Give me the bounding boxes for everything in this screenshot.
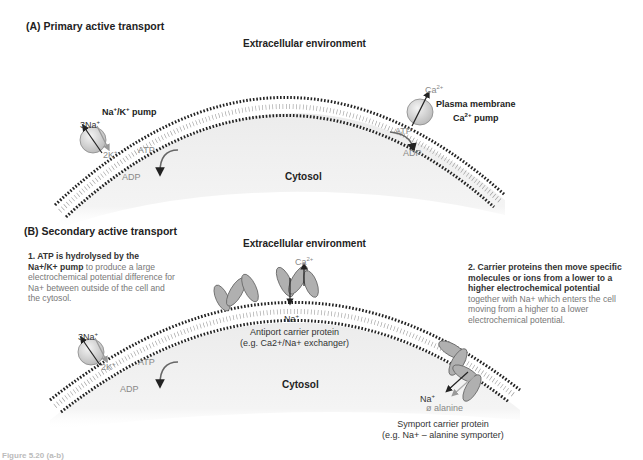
antiport-label: Antiport carrier protein(e.g. Ca2+/Na+ e… (240, 327, 349, 349)
cytosol-label-a: Cytosol (285, 171, 322, 182)
na-ions-text-b: 3Na (78, 332, 95, 342)
adp-label-a2: ADP (403, 148, 422, 159)
ca-pump-line1: Plasma membrane (436, 99, 516, 110)
note-1: 1. ATP is hydrolysed by the Na+/K+ pump … (28, 251, 178, 304)
ca-pump-label-a: Plasma membraneCa2+ pump (436, 99, 516, 124)
na-text-b: Na (284, 314, 296, 324)
note2-text: together with Na+ which enters the cell … (468, 294, 616, 325)
na-ion-b: Na+ (284, 311, 299, 325)
atp-label-b: ATP (138, 357, 155, 368)
symport-alanine: ø alanine (426, 403, 463, 414)
panel-a-title: (A) Primary active transport (26, 20, 164, 32)
figure-caption: Figure 5.20 (a-b) (2, 451, 64, 460)
alanine-text: alanine (434, 403, 463, 413)
adp-label-b: ADP (120, 384, 139, 395)
na-ions-a: 3Na+ (80, 117, 100, 131)
k-ions-a: 2K+ (103, 147, 118, 161)
adp-label-a: ADP (122, 172, 141, 183)
ca-pump-line2-c: pump (471, 113, 498, 123)
antiport-line2: (e.g. Ca2+/Na+ exchanger) (240, 338, 349, 349)
panel-b-title: (B) Secondary active transport (24, 225, 177, 237)
symport-line1: Symport carrier protein (382, 419, 504, 430)
ca-pump-line2: Ca2+ pump (436, 110, 516, 124)
atp-label-a2: ATP (395, 126, 412, 137)
cytosol-label-b: Cytosol (282, 379, 319, 390)
antiport-line1: Antiport carrier protein (240, 327, 349, 338)
note-2: 2. Carrier proteins then move specific m… (468, 262, 630, 325)
extracellular-label-b: Extracellular environment (243, 238, 366, 249)
na-ions-text: 3Na (80, 120, 97, 130)
ca-text: Ca (425, 85, 437, 95)
nak-text-mid: /K (117, 107, 126, 117)
k-ions-text-b: 2K (101, 362, 112, 372)
na-ions-b: 3Na+ (78, 329, 98, 343)
k-ions-text: 2K (103, 150, 114, 160)
ca-charge-b: 2+ (307, 256, 314, 262)
ca-charge: 2+ (437, 84, 444, 90)
nak-pump-label-a: Na+/K+ pump (102, 104, 157, 118)
ca-ion-b: Ca2+ (295, 254, 313, 268)
nak-text: Na (102, 107, 114, 117)
ca-ion-a: Ca2+ (425, 82, 443, 96)
symport-label: Symport carrier protein(e.g. Na+ – alani… (382, 419, 504, 441)
extracellular-label-a: Extracellular environment (243, 38, 366, 49)
ca-pump-a (407, 99, 433, 125)
antiport-protein (211, 263, 322, 313)
ca-pump-line2-a: Ca (453, 113, 465, 123)
nak-text-end: pump (130, 107, 157, 117)
k-ions-b: 2K+ (101, 359, 116, 373)
note1-bold2: Na+/K+ pump (28, 262, 83, 272)
atp-label-a: ATP (138, 145, 155, 156)
note2-bold: 2. Carrier proteins then move specific m… (468, 262, 622, 293)
ca-text-b: Ca (295, 257, 307, 267)
symport-line2: (e.g. Na+ – alanine symporter) (382, 430, 504, 441)
note1-bold1: 1. ATP is hydrolysed by the (28, 251, 139, 261)
